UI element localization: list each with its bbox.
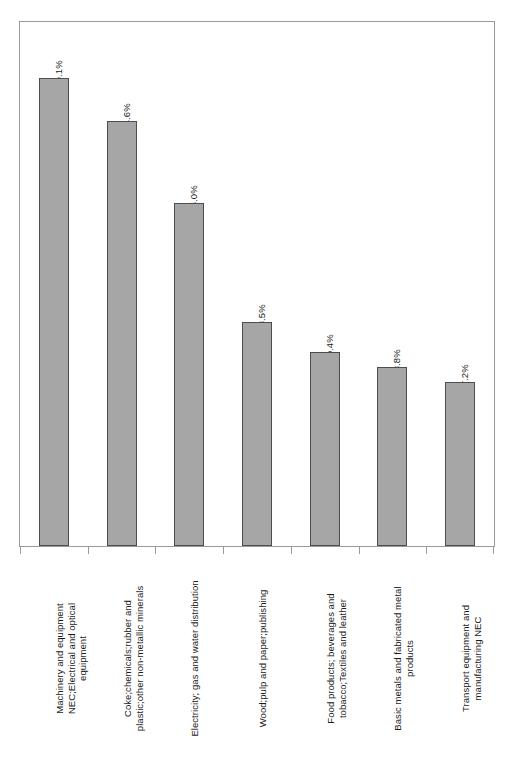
axis-tick bbox=[291, 547, 292, 554]
category-label: Electricity; gas and water distribution bbox=[189, 556, 201, 761]
bar-slot: 44.6% bbox=[88, 22, 156, 546]
x-axis-category-labels: Machinery and equipment NEC;Electrical a… bbox=[20, 556, 494, 761]
bar-slot: 18.8% bbox=[359, 22, 427, 546]
category-label: Food products; beverages and tobacco;Tex… bbox=[325, 556, 348, 761]
label-slot: Machinery and equipment NEC;Electrical a… bbox=[20, 556, 88, 761]
bar[interactable] bbox=[377, 367, 407, 546]
bar-slot: 20.4% bbox=[291, 22, 359, 546]
bar-chart: 49.1% 44.6% 36.0% 23.5% 20.4% 18.8% 17.2… bbox=[0, 0, 508, 767]
bar[interactable] bbox=[107, 121, 137, 546]
category-label: Coke;chemicals;rubber and plastic;other … bbox=[122, 556, 145, 761]
bar-slot: 23.5% bbox=[223, 22, 291, 546]
bar-slot: 17.2% bbox=[426, 22, 494, 546]
label-slot: Wood;pulp and paper;publishing bbox=[223, 556, 291, 761]
plot-area: 49.1% 44.6% 36.0% 23.5% 20.4% 18.8% 17.2… bbox=[20, 22, 494, 546]
bar[interactable] bbox=[242, 322, 272, 546]
axis-tick bbox=[493, 547, 494, 554]
category-label: Wood;pulp and paper;publishing bbox=[257, 556, 269, 761]
category-label: Transport equipment and manufacturing NE… bbox=[460, 556, 483, 761]
bar[interactable] bbox=[174, 203, 204, 546]
axis-tick bbox=[426, 547, 427, 554]
x-axis-ticks bbox=[20, 547, 494, 554]
label-slot: Basic metals and fabricated metal produc… bbox=[359, 556, 427, 761]
axis-tick bbox=[20, 547, 21, 554]
bar[interactable] bbox=[445, 382, 475, 546]
category-label: Machinery and equipment NEC;Electrical a… bbox=[54, 556, 89, 761]
label-slot: Transport equipment and manufacturing NE… bbox=[426, 556, 494, 761]
label-slot: Food products; beverages and tobacco;Tex… bbox=[291, 556, 359, 761]
axis-tick bbox=[155, 547, 156, 554]
label-slot: Electricity; gas and water distribution bbox=[155, 556, 223, 761]
bar[interactable] bbox=[39, 78, 69, 546]
bar-slot: 36.0% bbox=[155, 22, 223, 546]
bar-slot: 49.1% bbox=[20, 22, 88, 546]
axis-tick bbox=[359, 547, 360, 554]
axis-tick bbox=[223, 547, 224, 554]
bar[interactable] bbox=[310, 352, 340, 546]
category-label: Basic metals and fabricated metal produc… bbox=[392, 556, 415, 761]
axis-tick bbox=[88, 547, 89, 554]
label-slot: Coke;chemicals;rubber and plastic;other … bbox=[88, 556, 156, 761]
